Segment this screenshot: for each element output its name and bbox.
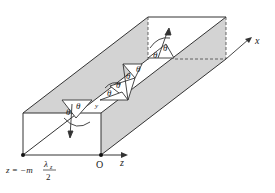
theta-3a: θ xyxy=(153,50,158,60)
x-axis-label: x xyxy=(254,35,260,46)
front-face xyxy=(23,113,101,155)
theta-2b: θ xyxy=(116,80,121,90)
formula-numerator: λ xyxy=(43,159,48,169)
position-formula: z = −m λ z 2 xyxy=(5,159,56,182)
z-axis-label: z xyxy=(119,157,124,168)
theta-2c: θ xyxy=(126,71,131,81)
theta-3b: θ xyxy=(163,43,168,53)
formula-denominator: 2 xyxy=(46,172,51,182)
origin-label: O xyxy=(96,159,103,170)
formula-left: z = −m xyxy=(5,165,33,175)
waveguide-svg: θ θ θ θ θ θ θ θ y x z O z = −m λ z 2 xyxy=(0,0,275,193)
x-axis xyxy=(226,37,252,59)
formula-numerator-sub: z xyxy=(49,164,53,170)
theta-2d: θ xyxy=(136,64,141,74)
waveguide-diagram: θ θ θ θ θ θ θ θ y x z O z = −m λ z 2 xyxy=(0,0,275,193)
theta-1a: θ xyxy=(66,107,71,117)
theta-2a: θ xyxy=(107,88,112,98)
theta-1b: θ xyxy=(76,101,81,111)
